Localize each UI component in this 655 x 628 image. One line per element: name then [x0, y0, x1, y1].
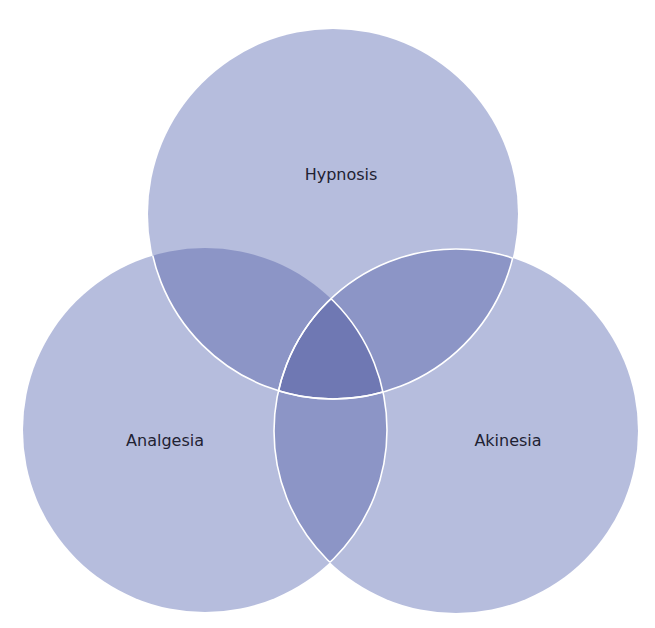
label-hypnosis: Hypnosis	[305, 165, 378, 184]
label-analgesia: Analgesia	[126, 431, 204, 450]
label-akinesia: Akinesia	[474, 431, 541, 450]
venn-diagram	[0, 0, 655, 628]
